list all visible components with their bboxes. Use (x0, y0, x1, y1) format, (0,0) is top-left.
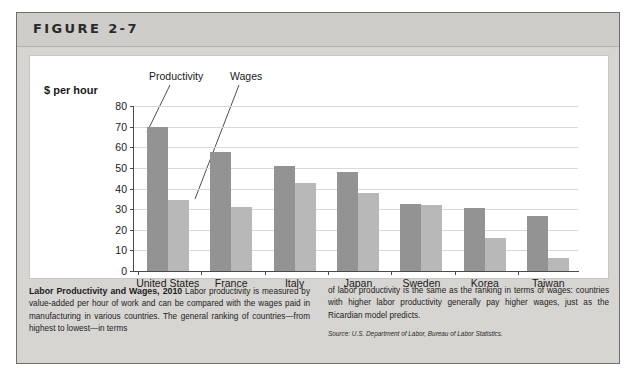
x-axis-tick (265, 271, 266, 275)
bar-productivity-united-states[interactable] (147, 127, 168, 271)
figure-number-label: FIGURE 2-7 (33, 21, 139, 36)
x-axis-line (133, 271, 579, 272)
bar-wages-united-states[interactable] (168, 200, 189, 271)
x-axis-tick (391, 271, 392, 275)
source-note: Source: U.S. Department of Labor, Bureau… (328, 329, 609, 339)
x-axis-tick (455, 271, 456, 275)
bar-wages-taiwan[interactable] (548, 258, 569, 271)
y-axis-title: $ per hour (44, 84, 98, 96)
figure-header-band: FIGURE 2-7 (17, 13, 619, 47)
x-axis-tick (328, 271, 329, 275)
x-axis-tick (138, 271, 139, 275)
x-axis-tick (201, 271, 202, 275)
bar-group[interactable]: Korea (464, 106, 506, 271)
y-axis-tick-label: 20 (115, 224, 127, 236)
bar-productivity-italy[interactable] (274, 166, 295, 271)
chart-card: $ per hour Productivity Wages 0102030405… (29, 55, 609, 279)
bar-group[interactable]: France (210, 106, 252, 271)
bar-productivity-taiwan[interactable] (527, 216, 548, 271)
bar-productivity-korea[interactable] (464, 208, 485, 271)
y-axis-tick (130, 271, 134, 272)
bar-group[interactable]: Japan (337, 106, 379, 271)
bar-wages-italy[interactable] (295, 183, 316, 271)
y-axis-tick (130, 209, 134, 210)
bar-wages-korea[interactable] (485, 238, 506, 271)
figure-caption: Labor Productivity and Wages, 2010 Labor… (29, 285, 609, 357)
bar-productivity-sweden[interactable] (400, 204, 421, 271)
figure-page: FIGURE 2-7 $ per hour Productivity Wages… (0, 0, 636, 379)
caption-column-left: Labor Productivity and Wages, 2010 Labor… (29, 285, 310, 357)
y-axis-tick (130, 250, 134, 251)
y-axis-tick-label: 80 (115, 100, 127, 112)
bar-productivity-france[interactable] (210, 152, 231, 271)
bar-group[interactable]: United States (147, 106, 189, 271)
bar-wages-japan[interactable] (358, 193, 379, 271)
y-axis-tick (130, 189, 134, 190)
y-axis-tick-label: 10 (115, 244, 127, 256)
y-axis-tick-label: 30 (115, 203, 127, 215)
y-axis-tick (130, 106, 134, 107)
y-axis-tick-label: 60 (115, 141, 127, 153)
x-axis-tick (518, 271, 519, 275)
plot-area: 01020304050607080 United StatesFranceIta… (134, 106, 578, 271)
y-axis-tick (130, 168, 134, 169)
caption-right-body: of labor productivity is the same as the… (328, 285, 609, 322)
bar-group[interactable]: Taiwan (527, 106, 569, 271)
y-axis-tick (130, 147, 134, 148)
callout-productivity-label: Productivity (149, 70, 203, 82)
y-axis-tick-label: 50 (115, 162, 127, 174)
y-axis-tick (130, 230, 134, 231)
y-axis-tick-label: 40 (115, 183, 127, 195)
bar-group[interactable]: Italy (274, 106, 316, 271)
bar-group[interactable]: Sweden (400, 106, 442, 271)
bar-productivity-japan[interactable] (337, 172, 358, 271)
bar-wages-sweden[interactable] (421, 205, 442, 271)
caption-title: Labor Productivity and Wages, 2010 (29, 286, 182, 296)
y-axis-tick-label: 0 (121, 265, 127, 277)
y-axis-tick (130, 127, 134, 128)
bar-wages-france[interactable] (231, 207, 252, 271)
callout-wages-label: Wages (230, 70, 262, 82)
caption-column-right: of labor productivity is the same as the… (328, 285, 609, 357)
figure-frame: FIGURE 2-7 $ per hour Productivity Wages… (16, 12, 620, 364)
y-axis-tick-label: 70 (115, 121, 127, 133)
